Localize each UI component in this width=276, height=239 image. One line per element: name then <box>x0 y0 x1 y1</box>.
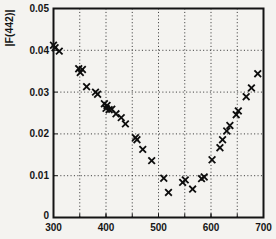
y-tick-label: 0.05 <box>30 3 50 14</box>
y-tick-label: 0.03 <box>30 87 50 98</box>
x-tick-label: 300 <box>45 222 62 233</box>
figure-page: 30040050060070000.010.020.030.040.05|F(4… <box>0 0 276 239</box>
x-tick-label: 700 <box>255 222 272 233</box>
x-tick-label: 600 <box>203 222 220 233</box>
x-tick-label: 500 <box>150 222 167 233</box>
scatter-plot: 30040050060070000.010.020.030.040.05|F(4… <box>0 0 276 239</box>
y-axis-label: |F(442)| <box>3 10 15 47</box>
y-tick-label: 0.04 <box>30 45 50 56</box>
y-tick-label: 0.02 <box>30 128 50 139</box>
y-tick-label: 0.01 <box>30 170 50 181</box>
x-tick-label: 400 <box>98 222 115 233</box>
y-tick-label: 0 <box>43 210 49 221</box>
